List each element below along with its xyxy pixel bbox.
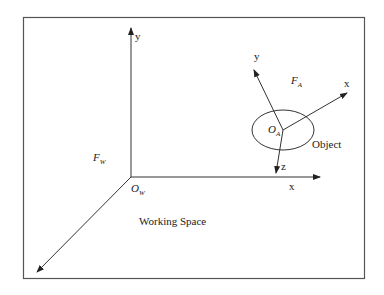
- object-y-label: y: [254, 51, 260, 62]
- object-label: Object: [312, 139, 341, 150]
- object-y-axis: [254, 70, 283, 130]
- object-z-label: z: [281, 161, 286, 172]
- world-z-axis: [37, 177, 131, 272]
- world-frame-label: FW: [93, 152, 106, 166]
- object-frame-label: FA: [291, 75, 302, 89]
- world-y-label: y: [135, 31, 141, 42]
- object-x-axis: [283, 93, 347, 130]
- world-origin-label: OW: [131, 183, 145, 197]
- world-x-label: x: [289, 181, 295, 192]
- object-origin-label: OA: [268, 124, 280, 138]
- working-space-label: Working Space: [139, 216, 206, 227]
- object-x-label: x: [344, 78, 350, 89]
